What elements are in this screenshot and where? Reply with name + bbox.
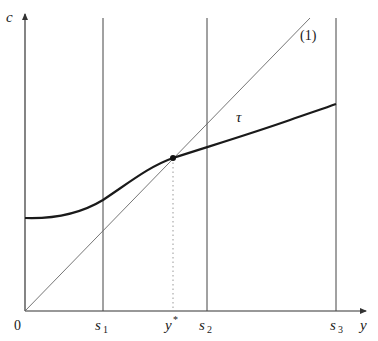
diagram-figure: c y 0 (1) τ s 1 y * s 2 s 3: [0, 0, 378, 341]
svg-text:2: 2: [207, 324, 212, 335]
label-s2: s 2: [199, 317, 212, 335]
svg-text:y: y: [163, 317, 172, 333]
label-ystar: y *: [163, 314, 178, 333]
svg-text:3: 3: [338, 324, 343, 335]
line-label-1: (1): [300, 28, 317, 44]
label-s1: s 1: [95, 317, 108, 335]
origin-label: 0: [14, 318, 21, 333]
svg-text:1: 1: [103, 324, 108, 335]
label-s3: s 3: [330, 317, 343, 335]
equilibrium-point: [170, 155, 176, 161]
svg-text:s: s: [95, 317, 101, 333]
x-axis-label: y: [358, 317, 367, 333]
svg-text:s: s: [199, 317, 205, 333]
diagonal-line-1: [25, 18, 310, 311]
svg-text:s: s: [330, 317, 336, 333]
svg-text:*: *: [173, 314, 178, 325]
curve-label-tau: τ: [236, 109, 242, 125]
y-axis-label: c: [6, 9, 13, 25]
tau-curve: [25, 104, 336, 218]
